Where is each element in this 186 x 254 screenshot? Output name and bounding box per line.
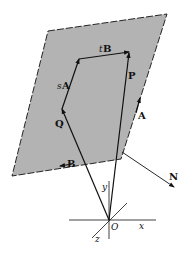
label-y: y	[101, 182, 108, 192]
label-z: z	[94, 234, 100, 244]
label-B: B	[67, 158, 75, 169]
plane	[12, 14, 167, 176]
plane-vector-diagram: s A t B P Q A B N O x y z	[0, 0, 186, 254]
label-sA-A: A	[61, 80, 70, 91]
label-O: O	[111, 222, 119, 232]
label-tB-B: B	[103, 43, 111, 54]
label-A: A	[137, 110, 146, 121]
label-P: P	[128, 70, 136, 81]
label-x: x	[139, 221, 144, 231]
label-Q: Q	[55, 118, 64, 129]
label-N: N	[169, 171, 178, 182]
z-axis	[92, 203, 127, 238]
vector-N	[122, 152, 174, 187]
